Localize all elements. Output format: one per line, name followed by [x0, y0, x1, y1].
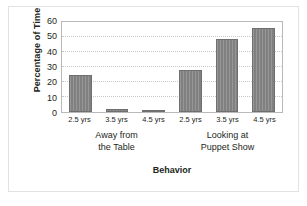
bar	[179, 70, 202, 112]
x-axis-tick-label: 2.5 yrs	[61, 115, 98, 124]
group-label-line: the Table	[61, 141, 172, 153]
bar-slot	[209, 22, 246, 112]
bar	[142, 110, 165, 112]
group-label-line: Away from	[61, 129, 172, 141]
x-axis-tick-label: 2.5 yrs	[172, 115, 209, 124]
x-axis-tick-label: 4.5 yrs	[246, 115, 283, 124]
plot-area	[61, 21, 283, 113]
y-axis-tick-label: 20	[47, 78, 57, 87]
x-axis-group-label: Away fromthe Table	[61, 129, 172, 153]
group-label-line: Puppet Show	[172, 141, 283, 153]
plot-wrap: 6050403020100	[61, 21, 283, 113]
y-axis-tick-label: 0	[52, 109, 57, 118]
x-axis-group-label: Looking atPuppet Show	[172, 129, 283, 153]
x-axis-tick-label: 3.5 yrs	[98, 115, 135, 124]
bar	[252, 28, 275, 112]
y-axis-tick-label: 10	[47, 93, 57, 102]
x-axis-title: Behavior	[61, 165, 283, 175]
group-label-line: Looking at	[172, 129, 283, 141]
figure-frame: Percentage of Time 6050403020100 2.5 yrs…	[8, 6, 299, 192]
y-axis-title: Percentage of Time	[32, 0, 42, 100]
y-axis-tick-label: 60	[47, 17, 57, 26]
x-axis-ticks: 2.5 yrs3.5 yrs4.5 yrs2.5 yrs3.5 yrs4.5 y…	[61, 115, 283, 124]
x-axis-tick-label: 4.5 yrs	[135, 115, 172, 124]
bar-slot	[99, 22, 136, 112]
bar	[106, 109, 129, 112]
y-axis-tick-label: 50	[47, 32, 57, 41]
y-axis-tick-label: 40	[47, 47, 57, 56]
bar	[216, 39, 239, 113]
bar-slot	[172, 22, 209, 112]
bar-slot	[135, 22, 172, 112]
x-axis-group-labels: Away fromthe TableLooking atPuppet Show	[61, 129, 283, 153]
bar	[69, 75, 92, 113]
y-axis-tick-label: 30	[47, 63, 57, 72]
bar-series	[62, 22, 282, 112]
bar-slot	[62, 22, 99, 112]
bar-slot	[245, 22, 282, 112]
x-axis-tick-label: 3.5 yrs	[209, 115, 246, 124]
